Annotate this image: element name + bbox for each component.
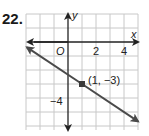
x-axis-label: x — [130, 28, 137, 40]
point-label: (1, −3) — [88, 74, 120, 86]
point-marker — [79, 81, 85, 87]
coordinate-plane: y x O 2 4 −4 (1, −3) — [0, 0, 149, 136]
y-tick-neg4: −4 — [50, 95, 63, 107]
x-tick-2: 2 — [93, 45, 99, 57]
x-tick-4: 4 — [121, 45, 127, 57]
y-axis-label: y — [71, 9, 79, 21]
grid — [26, 14, 138, 130]
origin-label: O — [56, 45, 65, 57]
